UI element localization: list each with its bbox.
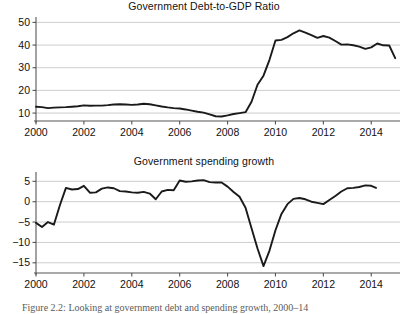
x-tick-label: 2006 bbox=[168, 126, 192, 138]
y-tick-label: 10 bbox=[18, 107, 30, 119]
x-tick-label: 2012 bbox=[312, 278, 336, 290]
figure-container: Government Debt-to-GDP Ratio 10203040502… bbox=[0, 0, 408, 314]
figure-caption: Figure 2.2: Looking at government debt a… bbox=[22, 301, 408, 314]
x-tick-label: 2002 bbox=[72, 278, 96, 290]
data-line bbox=[36, 30, 395, 116]
x-tick-label: 2004 bbox=[120, 278, 144, 290]
x-tick-label: 2002 bbox=[72, 126, 96, 138]
chart-panel-debt-to-gdp: Government Debt-to-GDP Ratio 10203040502… bbox=[0, 0, 408, 150]
plot-area-spending-growth: −15−10−505200020022004200620082010201220… bbox=[0, 155, 408, 300]
x-tick-label: 2004 bbox=[120, 126, 144, 138]
x-tick-label: 2000 bbox=[24, 278, 48, 290]
y-tick-label: 40 bbox=[18, 39, 30, 51]
y-tick-label: 30 bbox=[18, 61, 30, 73]
plot-area-debt-to-gdp: 1020304050200020022004200620082010201220… bbox=[0, 0, 408, 150]
y-tick-label: 20 bbox=[18, 84, 30, 96]
x-tick-label: 2014 bbox=[360, 126, 384, 138]
x-tick-label: 2000 bbox=[24, 126, 48, 138]
x-tick-label: 2010 bbox=[264, 126, 288, 138]
chart-panel-spending-growth: Government spending growth −15−10−505200… bbox=[0, 155, 408, 300]
x-tick-label: 2010 bbox=[264, 278, 288, 290]
y-tick-label: −10 bbox=[12, 236, 30, 248]
x-tick-label: 2008 bbox=[216, 126, 240, 138]
y-tick-label: −5 bbox=[18, 216, 30, 228]
x-tick-label: 2006 bbox=[168, 278, 192, 290]
y-tick-label: −15 bbox=[12, 256, 30, 268]
y-tick-label: 0 bbox=[24, 195, 30, 207]
x-tick-label: 2014 bbox=[360, 278, 384, 290]
x-tick-label: 2012 bbox=[312, 126, 336, 138]
x-tick-label: 2008 bbox=[216, 278, 240, 290]
y-tick-label: 50 bbox=[18, 16, 30, 28]
y-tick-label: 5 bbox=[24, 175, 30, 187]
data-line bbox=[36, 180, 376, 266]
